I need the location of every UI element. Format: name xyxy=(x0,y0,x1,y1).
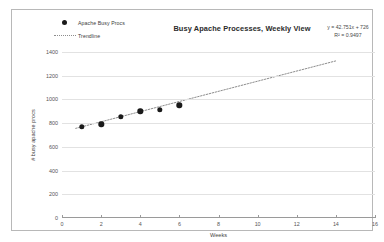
dotted-line-marker-icon xyxy=(54,31,76,40)
x-axis-tick xyxy=(297,215,298,218)
x-axis-tick-label: 8 xyxy=(217,221,220,227)
y-axis-tick-label: 1200 xyxy=(46,73,58,79)
x-axis-title: Weeks xyxy=(62,232,375,238)
gridline-horizontal xyxy=(62,52,375,53)
x-axis-tick xyxy=(258,215,259,218)
x-axis-tick-label: 4 xyxy=(139,221,142,227)
chart-frame: Apache Busy Procs Trendline Busy Apache … xyxy=(11,9,373,231)
x-axis-tick-label: 10 xyxy=(255,221,261,227)
x-axis-tick xyxy=(179,215,180,218)
legend-label-trendline: Trendline xyxy=(76,33,100,39)
y-axis-tick-label: 0 xyxy=(55,215,58,221)
x-axis-tick xyxy=(140,215,141,218)
y-axis-tick-label: 800 xyxy=(49,120,58,126)
gridline-horizontal xyxy=(62,76,375,77)
x-axis-tick xyxy=(375,215,376,218)
y-axis-tick-label: 400 xyxy=(49,168,58,174)
filled-circle-marker-icon xyxy=(54,18,76,27)
y-axis-tick-label: 600 xyxy=(49,144,58,150)
chart-screenshot: Apache Busy Procs Trendline Busy Apache … xyxy=(0,0,384,242)
trendline-equation-annotation: y = 42.751x + 726 R² = 0.9497 xyxy=(317,23,379,39)
x-axis-tick-label: 6 xyxy=(178,221,181,227)
chart-title: Busy Apache Processes, Weekly View xyxy=(162,24,322,33)
r-squared-text: R² = 0.9497 xyxy=(317,31,379,39)
legend-item-trendline: Trendline xyxy=(54,30,174,41)
legend-item-apache-busy-procs: Apache Busy Procs xyxy=(54,17,174,28)
plot-area: 02004006008001000120014000246810121416 xyxy=(62,52,375,218)
gridline-horizontal xyxy=(62,171,375,172)
y-axis-tick-label: 1400 xyxy=(46,49,58,55)
gridline-horizontal xyxy=(62,99,375,100)
gridline-horizontal xyxy=(62,194,375,195)
chart-legend: Apache Busy Procs Trendline xyxy=(54,17,174,43)
x-axis-tick-label: 0 xyxy=(61,221,64,227)
x-axis-tick-label: 16 xyxy=(372,221,378,227)
y-axis-title: # busy apache procs xyxy=(30,109,36,161)
y-axis-tick-label: 1000 xyxy=(46,96,58,102)
x-axis-tick-label: 12 xyxy=(294,221,300,227)
x-axis-tick xyxy=(336,215,337,218)
x-axis-tick xyxy=(101,215,102,218)
legend-label-apache-busy-procs: Apache Busy Procs xyxy=(76,20,125,26)
gridline-horizontal xyxy=(62,147,375,148)
trendline-path xyxy=(62,52,375,218)
x-axis-tick xyxy=(62,215,63,218)
x-axis-tick-label: 2 xyxy=(100,221,103,227)
regression-equation-text: y = 42.751x + 726 xyxy=(317,23,379,31)
x-axis-tick xyxy=(219,215,220,218)
gridline-horizontal xyxy=(62,123,375,124)
y-axis-tick-label: 200 xyxy=(49,191,58,197)
x-axis-tick-label: 14 xyxy=(333,221,339,227)
